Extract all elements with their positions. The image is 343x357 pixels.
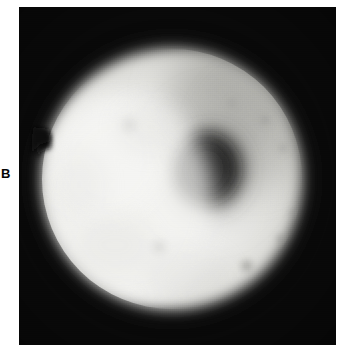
micrograph-image [19, 7, 336, 345]
micrograph-frame [19, 7, 336, 345]
figure-panel: B [0, 0, 343, 357]
panel-label-b: B [1, 165, 15, 183]
